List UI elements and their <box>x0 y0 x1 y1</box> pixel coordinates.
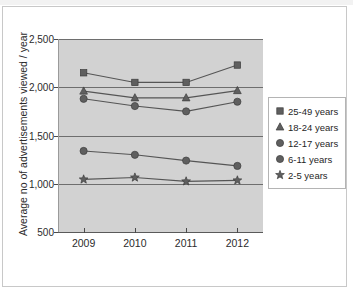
circle-marker-icon <box>274 153 286 165</box>
data-point <box>80 147 87 154</box>
chart-legend: 25-49 years18-24 years12-17 years6-11 ye… <box>268 97 346 189</box>
y-axis-ticks: 5001,0001,5002,0002,500 <box>0 0 54 291</box>
legend-label: 2-5 years <box>288 170 328 181</box>
series-line <box>84 177 238 181</box>
legend-item: 18-24 years <box>274 119 341 135</box>
data-point <box>80 95 87 102</box>
data-point <box>132 79 138 85</box>
x-axis-line <box>58 232 263 233</box>
data-point <box>233 176 242 184</box>
series-line <box>84 91 238 98</box>
data-point <box>80 87 88 94</box>
legend-item: 2-5 years <box>274 167 341 183</box>
data-point <box>234 62 240 68</box>
legend-label: 25-49 years <box>288 106 338 117</box>
series-layer <box>58 39 263 232</box>
data-point <box>182 177 191 185</box>
y-tick-label: 1,500 <box>29 130 54 141</box>
data-point <box>131 151 138 158</box>
y-tick-label: 2,500 <box>29 34 54 45</box>
legend-item: 25-49 years <box>274 103 341 119</box>
star-marker-icon <box>274 169 286 181</box>
data-point <box>183 79 189 85</box>
series-25-49-years <box>80 62 240 86</box>
square-marker-icon <box>274 105 286 117</box>
series-18-24-years <box>80 86 241 100</box>
data-point <box>79 175 88 183</box>
data-point <box>80 70 86 76</box>
series-line <box>84 151 238 166</box>
series-6-11-years <box>80 147 241 169</box>
x-tick-label: 2011 <box>175 237 198 249</box>
legend-label: 18-24 years <box>288 122 338 133</box>
series-line <box>84 99 238 112</box>
data-point <box>131 102 138 109</box>
x-tick-label: 2010 <box>123 237 146 249</box>
data-point <box>183 157 190 164</box>
y-tick-label: 500 <box>37 227 54 238</box>
x-tick-label: 2012 <box>226 237 249 249</box>
data-point <box>183 108 190 115</box>
legend-item: 6-11 years <box>274 151 341 167</box>
data-point <box>234 162 241 169</box>
circle-marker-icon <box>274 137 286 149</box>
series-line <box>84 65 238 82</box>
legend-label: 6-11 years <box>288 154 332 165</box>
data-point <box>234 98 241 105</box>
x-tick-label: 2009 <box>72 237 95 249</box>
triangle-marker-icon <box>274 121 286 133</box>
chart-figure: Average no of advertisements viewed / ye… <box>0 0 353 291</box>
y-tick-label: 1,000 <box>29 178 54 189</box>
legend-item: 12-17 years <box>274 135 341 151</box>
data-point <box>234 86 242 93</box>
data-point <box>131 173 140 181</box>
series-2-5-years <box>79 173 242 185</box>
y-tick-label: 2,000 <box>29 82 54 93</box>
legend-label: 12-17 years <box>288 138 338 149</box>
